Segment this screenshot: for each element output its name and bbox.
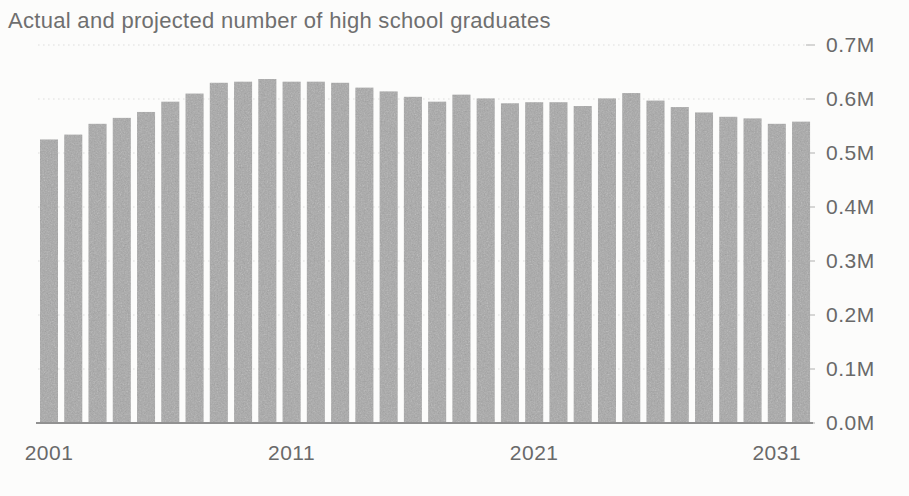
- bar-2014: [355, 88, 373, 423]
- bar-2024: [598, 98, 616, 423]
- bar-2029: [719, 117, 737, 423]
- bar-2009: [234, 82, 252, 423]
- bar-2016: [404, 97, 422, 423]
- bar-2001: [40, 140, 58, 424]
- bar-2004: [113, 118, 131, 423]
- bar-2017: [428, 102, 446, 423]
- bar-2002: [64, 135, 82, 423]
- bar-2015: [380, 91, 398, 423]
- bar-2030: [744, 118, 762, 423]
- bar-2025: [622, 93, 640, 423]
- bar-2020: [501, 103, 519, 423]
- bar-2032: [792, 122, 810, 423]
- bar-series: [40, 79, 810, 423]
- bar-2022: [549, 102, 567, 423]
- bar-2028: [695, 113, 713, 424]
- bar-2031: [768, 124, 786, 423]
- bar-2019: [477, 98, 495, 423]
- bar-2010: [258, 79, 276, 423]
- bar-2013: [331, 83, 349, 423]
- page: Actual and projected number of high scho…: [0, 0, 909, 496]
- bar-2023: [574, 106, 592, 423]
- bar-2021: [525, 102, 543, 423]
- bar-2012: [307, 82, 325, 423]
- bar-2005: [137, 112, 155, 423]
- bar-2008: [210, 83, 228, 423]
- bar-2003: [89, 124, 107, 423]
- bar-2006: [161, 102, 179, 423]
- bar-2026: [647, 101, 665, 423]
- bar-2018: [452, 95, 470, 423]
- bar-2011: [283, 82, 301, 423]
- bar-chart-plot: [0, 0, 909, 496]
- bar-2027: [671, 107, 689, 423]
- bar-2007: [186, 94, 204, 423]
